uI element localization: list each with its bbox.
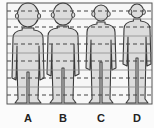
figure-ear-right-c bbox=[107, 12, 110, 17]
figure-head-a bbox=[17, 3, 38, 27]
figure-ear-left-a bbox=[15, 14, 18, 19]
figure-label-d: D bbox=[129, 111, 145, 125]
figure-ear-left-b bbox=[51, 13, 54, 18]
figure-ear-right-b bbox=[72, 13, 75, 18]
figure-ear-right-d bbox=[142, 10, 145, 15]
figure-label-a: A bbox=[20, 111, 36, 125]
figure-head-b bbox=[53, 3, 73, 25]
proportion-diagram: A B C D bbox=[0, 0, 154, 128]
figure-ear-left-c bbox=[92, 12, 95, 17]
figure-label-b: B bbox=[55, 111, 71, 125]
figure-ear-left-d bbox=[129, 10, 132, 15]
figure-ear-right-a bbox=[37, 14, 40, 19]
figure-label-c: C bbox=[93, 111, 109, 125]
diagram-canvas bbox=[0, 0, 154, 128]
